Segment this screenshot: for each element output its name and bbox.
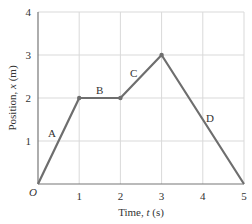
- x-tick-4: 4: [200, 190, 206, 202]
- x-tick-1: 1: [76, 190, 82, 202]
- x-tick-3: 3: [159, 190, 165, 202]
- segment-label-c: C: [130, 67, 137, 79]
- grid: [38, 12, 244, 184]
- segment-label-b: B: [96, 84, 103, 96]
- y-tick-4: 4: [26, 6, 32, 18]
- x-axis-label: Time, t (s): [118, 206, 164, 219]
- segment-label-d: D: [206, 112, 214, 124]
- origin-label: O: [29, 186, 37, 198]
- x-tick-5: 5: [241, 190, 247, 202]
- y-tick-1: 1: [26, 135, 32, 147]
- position-time-chart: A B C D 1 2 3 4 O 1 2 3 4 5 Time, t (s) …: [0, 0, 252, 224]
- segment-label-a: A: [48, 127, 56, 139]
- y-tick-3: 3: [26, 49, 32, 61]
- y-tick-2: 2: [26, 92, 32, 104]
- x-tick-2: 2: [118, 190, 124, 202]
- y-axis-label: Position, x (m): [6, 65, 19, 130]
